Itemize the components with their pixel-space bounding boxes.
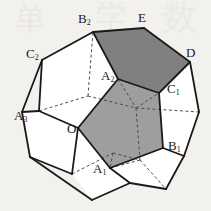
vertex-label-subscript: 3 xyxy=(23,115,27,124)
vertex-label-base: A xyxy=(101,68,110,83)
vertex-label-A1: A1 xyxy=(93,162,106,175)
vertex-label-O: O xyxy=(67,122,76,135)
vertex-label-subscript: 2 xyxy=(87,18,91,27)
vertex-label-A3: A3 xyxy=(14,109,27,122)
vertex-label-base: O xyxy=(67,121,76,136)
vertex-label-D: D xyxy=(186,46,195,59)
vertex-label-base: B xyxy=(78,11,87,26)
vertex-label-subscript: 1 xyxy=(177,145,181,154)
vertex-label-B1: B1 xyxy=(168,139,181,152)
vertex-label-base: A xyxy=(14,108,23,123)
vertex-label-base: A xyxy=(93,161,102,176)
vertex-label-A2: A2 xyxy=(101,69,114,82)
vertex-label-base: E xyxy=(138,10,146,25)
vertex-label-subscript: 2 xyxy=(35,53,39,62)
vertex-label-base: C xyxy=(26,46,35,61)
vertex-label-C2: C2 xyxy=(26,47,39,60)
vertex-label-E: E xyxy=(138,11,146,24)
vertex-label-subscript: 1 xyxy=(176,88,180,97)
vertex-label-subscript: 1 xyxy=(102,168,106,177)
vertex-label-C1: C1 xyxy=(167,82,180,95)
dodecahedron-figure: 单学数 B2EDC2A2C1A3OB1A1 xyxy=(0,0,211,211)
vertex-label-base: D xyxy=(186,45,195,60)
vertex-label-base: B xyxy=(168,138,177,153)
vertex-label-base: C xyxy=(167,81,176,96)
vertex-label-subscript: 2 xyxy=(110,75,114,84)
dodecahedron-drawing xyxy=(0,0,211,211)
faces-group xyxy=(22,28,199,200)
vertex-label-B2: B2 xyxy=(78,12,91,25)
